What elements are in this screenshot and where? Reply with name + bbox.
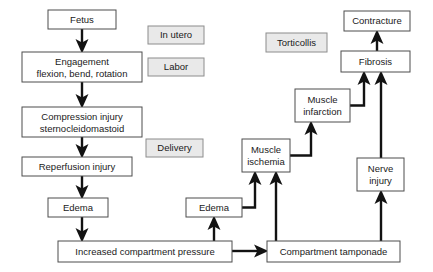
node-compartment-tamponade: Compartment tamponade — [267, 241, 400, 262]
node-edema-right: Edema — [186, 198, 242, 217]
node-nerve-injury-label-line1: Nerve — [368, 163, 393, 174]
node-increased-compartment-pressure-label: Increased compartment pressure — [75, 246, 214, 257]
node-edema-right-label: Edema — [199, 202, 230, 213]
stage-delivery: Delivery — [146, 139, 203, 157]
stage-delivery-label: Delivery — [157, 142, 192, 153]
stage-torticollis: Torticollis — [266, 33, 327, 52]
node-fibrosis: Fibrosis — [341, 51, 410, 72]
node-edema-left: Edema — [48, 198, 108, 217]
node-muscle-ischemia-label-line2: ischemia — [247, 156, 285, 167]
stage-in-utero-label: In utero — [160, 29, 192, 40]
node-increased-compartment-pressure: Increased compartment pressure — [58, 241, 232, 262]
node-muscle-infarction-label-line1: Muscle — [307, 94, 337, 105]
node-engagement-label-line1: Engagement — [55, 56, 109, 67]
node-muscle-ischemia-label-line1: Muscle — [251, 144, 281, 155]
node-contracture-label: Contracture — [352, 15, 402, 26]
stage-labor: Labor — [148, 58, 204, 76]
stage-torticollis-label: Torticollis — [277, 37, 316, 48]
node-fibrosis-label: Fibrosis — [359, 56, 393, 67]
node-edema-left-label: Edema — [63, 202, 94, 213]
node-reperfusion-injury-label: Reperfusion injury — [39, 161, 116, 172]
node-compression-injury-label-line1: Compression injury — [41, 111, 123, 122]
node-muscle-ischemia: Muscle ischemia — [242, 139, 290, 172]
node-fetus: Fetus — [48, 10, 116, 29]
node-compression-injury: Compression injury sternocleidomastoid — [22, 107, 142, 137]
node-contracture: Contracture — [344, 11, 410, 31]
node-engagement-label-line2: flexion, bend, rotation — [37, 68, 128, 79]
node-muscle-infarction-label-line2: infarction — [303, 106, 342, 117]
node-nerve-injury-label-line2: injury — [369, 175, 392, 186]
node-nerve-injury: Nerve injury — [357, 158, 404, 191]
flowchart-diagram: In utero Labor Delivery Torticollis Fetu… — [0, 0, 433, 272]
node-fetus-label: Fetus — [70, 14, 94, 25]
node-compression-injury-label-line2: sternocleidomastoid — [40, 123, 125, 134]
node-muscle-infarction: Muscle infarction — [295, 89, 350, 122]
node-reperfusion-injury: Reperfusion injury — [22, 157, 132, 176]
stage-labor-label: Labor — [164, 61, 188, 72]
stage-in-utero: In utero — [148, 26, 204, 44]
node-engagement: Engagement flexion, bend, rotation — [22, 52, 142, 82]
node-compartment-tamponade-label: Compartment tamponade — [280, 246, 388, 257]
